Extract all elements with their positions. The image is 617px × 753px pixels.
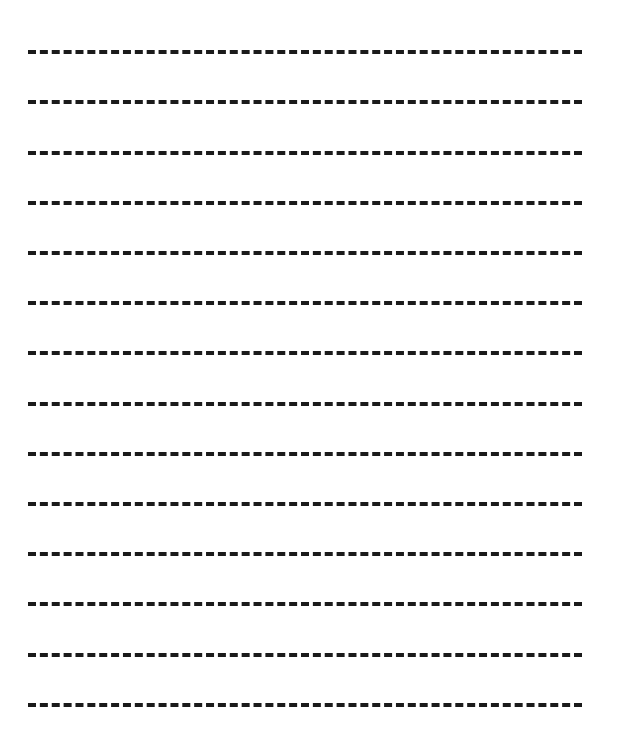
guide-rule-4 — [28, 201, 582, 205]
practice-sheet-page — [0, 0, 617, 753]
guide-rule-6 — [28, 301, 582, 305]
guide-rule-11 — [28, 552, 582, 556]
guide-rule-8 — [28, 402, 582, 406]
guide-rule-2 — [28, 100, 582, 104]
guide-rule-9 — [28, 452, 582, 456]
guide-rule-5 — [28, 251, 582, 255]
guide-rule-3 — [28, 151, 582, 155]
guide-rule-14 — [28, 703, 582, 707]
guide-rule-7 — [28, 351, 582, 355]
guide-rule-1 — [28, 50, 582, 54]
guide-rule-12 — [28, 602, 582, 606]
guide-rule-10 — [28, 502, 582, 506]
guide-rule-13 — [28, 653, 582, 657]
